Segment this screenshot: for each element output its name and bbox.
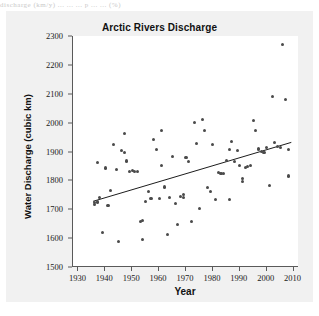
data-point [152, 138, 155, 141]
y-tick-label: 1800 [46, 175, 63, 185]
data-point [168, 196, 171, 199]
y-tick-label: 2100 [46, 89, 63, 99]
data-point [109, 189, 112, 192]
data-point [203, 129, 206, 132]
data-point [284, 98, 287, 101]
x-tick-mark [158, 267, 159, 271]
data-point [225, 159, 228, 162]
x-tick-label: 1940 [96, 273, 113, 283]
y-tick-label: 2200 [46, 60, 63, 70]
data-point [147, 190, 150, 193]
data-point [144, 200, 147, 203]
data-point [279, 146, 282, 149]
x-tick-mark [104, 267, 105, 271]
data-point [104, 166, 107, 169]
data-point [195, 142, 198, 145]
x-tick-mark [131, 267, 132, 271]
data-point [190, 220, 193, 223]
data-point [238, 164, 241, 167]
data-point [198, 207, 201, 210]
data-point [155, 148, 158, 151]
data-point [252, 119, 255, 122]
data-point [174, 202, 177, 205]
x-tick-mark [293, 267, 294, 271]
data-point [98, 196, 101, 199]
data-point [271, 95, 274, 98]
data-point [125, 159, 128, 162]
x-tick-label: 2000 [257, 273, 274, 283]
data-point [101, 231, 104, 234]
x-tick-label: 1970 [177, 273, 194, 283]
data-point [287, 174, 290, 177]
x-tick-mark [77, 267, 78, 271]
data-point [123, 132, 126, 135]
data-point [265, 146, 268, 149]
data-point [201, 118, 204, 121]
x-tick-label: 1950 [123, 273, 140, 283]
data-point [228, 148, 231, 151]
data-point [184, 156, 187, 159]
x-tick-label: 2010 [284, 273, 301, 283]
data-point [209, 190, 212, 193]
data-point [228, 198, 231, 201]
data-point [230, 140, 233, 143]
data-point [158, 197, 161, 200]
data-point [123, 151, 126, 154]
x-tick-mark [212, 267, 213, 271]
data-point [182, 196, 185, 199]
data-point [268, 184, 271, 187]
data-point [117, 240, 120, 243]
x-tick-label: 1990 [230, 273, 247, 283]
data-point [160, 129, 163, 132]
data-point [193, 121, 196, 124]
chart-figure: Arctic Rivers Discharge 1500160017001800… [6, 11, 313, 302]
data-point [273, 141, 276, 144]
y-tick-label: 1600 [46, 233, 63, 243]
data-point [166, 233, 169, 236]
data-point [141, 238, 144, 241]
data-point [149, 197, 152, 200]
data-point [281, 43, 284, 46]
y-tick-label: 1700 [46, 204, 63, 214]
data-point [236, 149, 239, 152]
data-point [222, 172, 225, 175]
y-axis: 150016001700180019002000210022002300 [6, 36, 72, 267]
x-tick-mark [266, 267, 267, 271]
data-point [187, 160, 190, 163]
data-point [176, 223, 179, 226]
data-point [160, 164, 163, 167]
y-tick-label: 1900 [46, 147, 63, 157]
plot-area [72, 36, 298, 267]
data-point [211, 143, 214, 146]
x-tick-mark [185, 267, 186, 271]
data-point [96, 200, 99, 203]
y-tick-label: 2300 [46, 31, 63, 41]
data-point [112, 143, 115, 146]
data-point [241, 180, 244, 183]
data-point [141, 219, 144, 222]
data-point [171, 155, 174, 158]
data-point [262, 151, 265, 154]
data-point [214, 198, 217, 201]
data-point [206, 186, 209, 189]
figure-page: discharge (km/y) ... ... ... p ... ... (… [0, 0, 319, 316]
data-point [115, 168, 118, 171]
x-tick-label: 1960 [150, 273, 167, 283]
x-tick-label: 1980 [203, 273, 220, 283]
data-point [96, 161, 99, 164]
data-point [106, 204, 109, 207]
y-tick-label: 1500 [46, 262, 63, 272]
scatter-points [73, 36, 298, 266]
y-tick-label: 2000 [46, 118, 63, 128]
x-tick-mark [239, 267, 240, 271]
scan-artifact-text: discharge (km/y) ... ... ... p ... ... (… [0, 0, 319, 10]
data-point [287, 148, 290, 151]
data-point [163, 185, 166, 188]
x-axis-label: Year [72, 286, 298, 297]
data-point [233, 160, 236, 163]
data-point [249, 164, 252, 167]
data-point [254, 129, 257, 132]
y-axis-label: Water Discharge (cubic km) [22, 72, 33, 242]
data-point [136, 170, 139, 173]
x-tick-label: 1930 [69, 273, 86, 283]
